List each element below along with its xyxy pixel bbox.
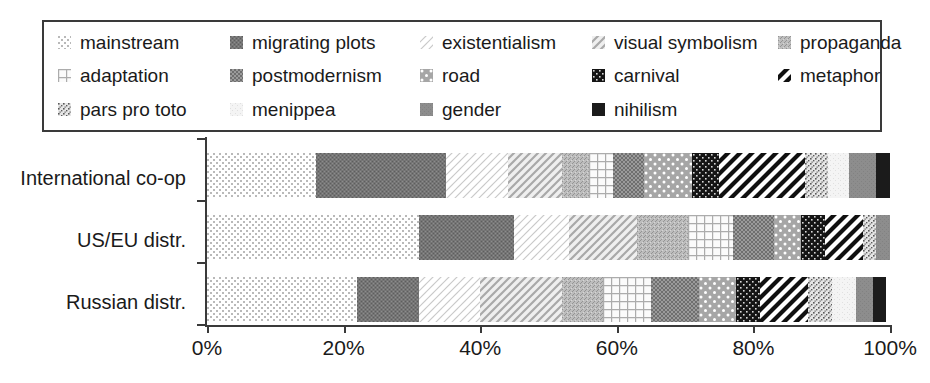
bar-segment-existentialism: [514, 215, 569, 260]
legend-item-nihilism: nihilism: [592, 100, 778, 119]
stacked-bar-chart: International co-op US/EU distr. Russian…: [0, 140, 930, 383]
x-tick-label-20: 20%: [323, 336, 365, 360]
legend-item-propaganda: propaganda: [778, 33, 896, 52]
bar-segment-postmodernism: [733, 215, 774, 260]
bar-segment-nihilism: [873, 277, 887, 322]
legend-swatch-migrating-plots: [230, 36, 243, 49]
legend-item-existentialism: existentialism: [420, 33, 592, 52]
x-tick-40: [480, 325, 482, 333]
y-axis-tick-1: [197, 200, 206, 202]
bar-segment-menippea: [828, 153, 848, 198]
bar-segment-mainstream: [207, 277, 357, 322]
bar-international-co-op: [207, 153, 890, 198]
bar-segment-visual_symbolism: [508, 153, 563, 198]
bar-russian-distr: [207, 277, 890, 322]
bar-segment-gender: [856, 277, 873, 322]
y-axis-tick-top: [197, 138, 206, 140]
bar-us-eu-distr: [207, 215, 890, 260]
legend-label-propaganda: propaganda: [800, 33, 901, 52]
bar-segment-mainstream: [207, 153, 316, 198]
bar-segment-pars_pro_toto: [805, 153, 829, 198]
legend-swatch-visual-symbolism: [592, 36, 605, 49]
bar-segment-existentialism: [446, 153, 507, 198]
bar-segment-migrating_plots: [316, 153, 446, 198]
plot-area: [207, 140, 890, 325]
bar-segment-adaptation: [589, 153, 613, 198]
legend-label-metaphor: metaphor: [800, 66, 880, 85]
bar-segment-road: [644, 153, 692, 198]
bar-segment-adaptation: [688, 215, 732, 260]
x-tick-60: [617, 325, 619, 333]
bar-segment-propaganda: [562, 153, 589, 198]
y-axis-tick-2: [197, 262, 206, 264]
legend-swatch-pars-pro-toto: [58, 103, 71, 116]
bar-segment-adaptation: [603, 277, 651, 322]
legend-swatch-carnival: [592, 69, 605, 82]
legend-item-carnival: carnival: [592, 66, 778, 85]
bar-segment-nihilism: [876, 153, 890, 198]
legend-item-adaptation: adaptation: [58, 66, 230, 85]
legend-swatch-mainstream: [58, 36, 71, 49]
legend-item-mainstream: mainstream: [58, 33, 230, 52]
legend-item-gender: gender: [420, 100, 592, 119]
legend-swatch-metaphor: [778, 69, 791, 82]
legend-swatch-gender: [420, 103, 433, 116]
x-tick-label-80: 80%: [732, 336, 774, 360]
legend-item-migrating-plots: migrating plots: [230, 33, 420, 52]
legend-item-road: road: [420, 66, 592, 85]
x-tick-80: [753, 325, 755, 333]
bar-segment-pars_pro_toto: [808, 277, 832, 322]
legend-label-gender: gender: [442, 100, 501, 119]
bar-segment-propaganda: [637, 215, 688, 260]
bar-segment-carnival: [801, 215, 825, 260]
x-tick-label-0: 0%: [192, 336, 222, 360]
bar-segment-existentialism: [419, 277, 480, 322]
legend-swatch-adaptation: [58, 69, 71, 82]
x-tick-0: [207, 325, 209, 333]
y-axis-label-international-co-op: International co-op: [0, 168, 186, 188]
bar-segment-metaphor: [825, 215, 863, 260]
x-tick-100: [890, 325, 892, 333]
bar-segment-carnival: [692, 153, 719, 198]
x-tick-label-40: 40%: [459, 336, 501, 360]
bar-segment-road: [774, 215, 801, 260]
legend-label-road: road: [442, 66, 480, 85]
bar-segment-gender: [876, 215, 890, 260]
bar-segment-gender: [849, 153, 876, 198]
legend-grid: mainstream migrating plots existentialis…: [44, 22, 880, 130]
legend-label-migrating-plots: migrating plots: [252, 33, 376, 52]
legend-label-visual-symbolism: visual symbolism: [614, 33, 758, 52]
legend-item-menippea: menippea: [230, 100, 420, 119]
bar-segment-metaphor: [719, 153, 804, 198]
bar-segment-propaganda: [562, 277, 603, 322]
bar-segment-migrating_plots: [419, 215, 515, 260]
y-axis-tick-bottom: [197, 324, 206, 326]
legend-item-postmodernism: postmodernism: [230, 66, 420, 85]
legend-swatch-nihilism: [592, 103, 605, 116]
bar-segment-pars_pro_toto: [863, 215, 877, 260]
x-tick-20: [344, 325, 346, 333]
bar-segment-visual_symbolism: [569, 215, 637, 260]
legend-swatch-postmodernism: [230, 69, 243, 82]
legend-item-visual-symbolism: visual symbolism: [592, 33, 778, 52]
bar-segment-postmodernism: [651, 277, 699, 322]
legend-swatch-existentialism: [420, 36, 433, 49]
legend-item-pars-pro-toto: pars pro toto: [58, 100, 230, 119]
bar-segment-carnival: [736, 277, 760, 322]
legend-label-existentialism: existentialism: [442, 33, 556, 52]
bar-segment-migrating_plots: [357, 277, 418, 322]
x-tick-label-60: 60%: [596, 336, 638, 360]
x-axis-line: [206, 325, 891, 327]
bar-segment-mainstream: [207, 215, 419, 260]
bar-segment-menippea: [832, 277, 856, 322]
bar-segment-visual_symbolism: [480, 277, 562, 322]
x-tick-label-100: 100%: [863, 336, 917, 360]
bar-segment-road: [699, 277, 737, 322]
legend-swatch-menippea: [230, 103, 243, 116]
y-axis-label-us-eu-distr: US/EU distr.: [0, 230, 186, 250]
legend-label-postmodernism: postmodernism: [252, 66, 382, 85]
legend-label-adaptation: adaptation: [80, 66, 169, 85]
legend-label-nihilism: nihilism: [614, 100, 677, 119]
legend-label-carnival: carnival: [614, 66, 679, 85]
legend-item-metaphor: metaphor: [778, 66, 896, 85]
